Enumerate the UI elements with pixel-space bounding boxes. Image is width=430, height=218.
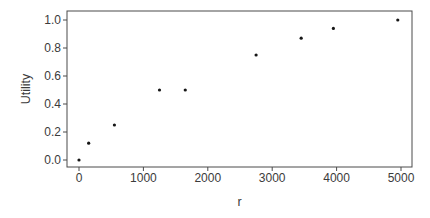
x-axis: 010002000300040005000 [76,167,415,185]
x-axis-title: r [237,195,241,209]
x-tick-label: 2000 [194,171,221,185]
data-point [396,18,399,21]
data-point [158,88,161,91]
x-tick-label: 1000 [130,171,157,185]
y-axis-title: Utility [19,73,33,104]
data-point [300,37,303,40]
data-point [332,27,335,30]
y-tick-label: 0.0 [44,153,61,167]
y-tick-label: 1.0 [44,13,61,27]
y-tick-label: 0.8 [44,41,61,55]
x-tick-label: 0 [76,171,83,185]
plot-canvas: 010002000300040005000 0.00.20.40.60.81.0… [0,0,430,218]
utility-scatter-figure: 010002000300040005000 0.00.20.40.60.81.0… [0,0,430,218]
y-axis: 0.00.20.40.60.81.0 [44,13,67,167]
data-point [87,142,90,145]
y-tick-label: 0.6 [44,69,61,83]
data-points [77,18,399,161]
data-point [255,53,258,56]
y-tick-label: 0.4 [44,97,61,111]
plot-frame [67,11,412,167]
data-point [113,123,116,126]
x-tick-label: 5000 [388,171,415,185]
x-tick-label: 3000 [259,171,286,185]
x-tick-label: 4000 [323,171,350,185]
y-tick-label: 0.2 [44,125,61,139]
data-point [77,158,80,161]
data-point [184,88,187,91]
